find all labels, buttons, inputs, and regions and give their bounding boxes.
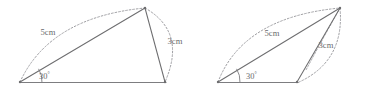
left-panel-vertex-apex <box>144 7 146 9</box>
left-triangle-panel: 5cm 3cm 30° <box>19 7 183 83</box>
left-panel-angle-degree-symbol: ° <box>47 71 49 77</box>
left-panel-side-3cm <box>145 8 165 82</box>
figure-stage: 5cm 3cm 30° <box>0 0 365 93</box>
right-panel-angle-degree-symbol: ° <box>254 71 256 77</box>
left-panel-vertex-base-left <box>19 81 21 83</box>
right-triangle-panel: 5cm 3cm 30° <box>217 7 341 83</box>
right-panel-vertex-base-right <box>296 81 298 83</box>
right-panel-label-5cm: 5cm <box>264 28 279 38</box>
left-panel-angle-label: 30° <box>39 71 50 81</box>
right-panel-vertex-base-left <box>217 81 219 83</box>
left-panel-vertex-base-right <box>164 81 166 83</box>
right-panel-angle-value: 30 <box>246 72 254 81</box>
right-panel-angle-label: 30° <box>246 71 257 81</box>
triangle-diagram-svg: 5cm 3cm 30° <box>0 0 365 93</box>
left-panel-angle-value: 30 <box>39 72 47 81</box>
right-panel-label-3cm: 3cm <box>318 40 333 50</box>
left-panel-label-3cm: 3cm <box>167 36 182 46</box>
left-panel-label-5cm: 5cm <box>40 27 55 37</box>
left-panel-side-5cm <box>20 8 145 82</box>
right-panel-angle-arc <box>237 69 240 82</box>
right-panel-vertex-apex <box>339 7 341 9</box>
